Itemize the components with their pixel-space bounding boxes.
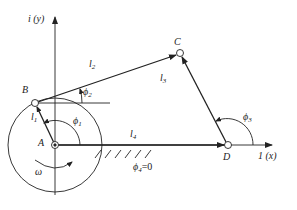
linkage-diagram: i (y) 1 (x) B C D A l1 l2 l3 l4 ϕ1 ϕ2 ϕ3… (0, 0, 297, 210)
omega-label: ω (35, 167, 42, 177)
phi3-label: ϕ3 (243, 112, 252, 124)
y-axis-label: i (y) (28, 14, 44, 24)
point-C-label: C (174, 37, 181, 47)
point-A-label: A (38, 138, 44, 148)
point-B-label: B (22, 85, 28, 95)
link-l3-label: l3 (160, 73, 166, 85)
ground-hatch (95, 150, 151, 158)
joint-D (225, 142, 232, 149)
x-axis-label: 1 (x) (258, 151, 277, 161)
link-l3 (182, 57, 226, 142)
link-l1-label: l1 (31, 112, 37, 124)
joint-B (32, 100, 39, 107)
link-l2-label: l2 (89, 59, 95, 71)
joint-C (177, 50, 184, 57)
phi2-arc (80, 89, 82, 103)
point-D-label: D (223, 152, 230, 162)
phi1-label: ϕ1 (73, 116, 82, 128)
link-l4-label: l4 (130, 129, 136, 141)
link-l2 (38, 55, 176, 102)
phi2-label: ϕ2 (83, 87, 92, 99)
diagram-canvas (0, 0, 297, 210)
phi4-label: ϕ4=0 (133, 162, 152, 174)
